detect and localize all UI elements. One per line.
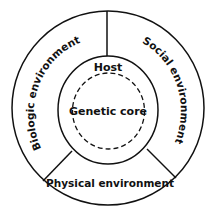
host-label: Host xyxy=(94,61,123,74)
biologic-environment-label: Biologic environment xyxy=(24,33,82,152)
biologic-environment-textpath: Biologic environment xyxy=(24,33,82,152)
social-environment-label: Social environment xyxy=(141,34,191,146)
social-environment-textpath: Social environment xyxy=(141,34,191,146)
host-environment-diagram: Host Genetic core Physical environment B… xyxy=(0,0,214,218)
physical-environment-label: Physical environment xyxy=(46,177,174,189)
genetic-core-label: Genetic core xyxy=(69,105,147,118)
divider-lower-right xyxy=(147,149,176,178)
